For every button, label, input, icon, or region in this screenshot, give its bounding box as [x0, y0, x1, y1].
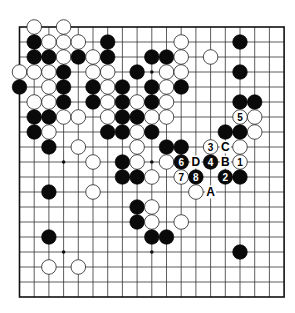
black-stone-icon — [100, 50, 115, 65]
black-stone — [233, 35, 248, 50]
white-stone: 5 — [233, 110, 248, 125]
star-point — [150, 160, 154, 164]
white-stone — [12, 65, 27, 80]
white-stone — [42, 65, 57, 80]
black-stone — [115, 80, 130, 95]
black-stone — [247, 95, 262, 110]
black-stone-icon — [145, 80, 160, 95]
black-stone — [145, 125, 160, 140]
white-stone — [71, 35, 86, 50]
white-stone-icon — [56, 110, 71, 125]
move-number: 1 — [237, 157, 243, 168]
black-stone-icon — [56, 65, 71, 80]
black-stone-icon — [159, 140, 174, 155]
white-stone: 1 — [233, 155, 248, 170]
white-stone-icon — [42, 95, 57, 110]
white-stone-icon — [27, 95, 42, 110]
white-stone-icon — [159, 95, 174, 110]
white-stone-icon — [71, 260, 86, 275]
white-stone-icon — [233, 140, 248, 155]
black-stone — [27, 35, 42, 50]
black-stone-icon — [42, 230, 57, 245]
white-stone-icon — [247, 125, 262, 140]
black-stone-icon — [247, 95, 262, 110]
letter-label: D — [192, 155, 201, 169]
black-stone-icon — [233, 170, 248, 185]
white-stone-icon — [56, 50, 71, 65]
white-stone — [27, 95, 42, 110]
black-stone-icon — [27, 35, 42, 50]
white-stone-icon — [130, 140, 145, 155]
black-stone-icon — [86, 80, 101, 95]
black-stone-icon — [233, 125, 248, 140]
white-stone-icon — [42, 260, 57, 275]
white-stone — [56, 50, 71, 65]
black-stone-icon — [27, 110, 42, 125]
black-stone-icon — [218, 125, 233, 140]
white-stone — [233, 140, 248, 155]
black-stone — [100, 50, 115, 65]
white-stone — [174, 50, 189, 65]
white-stone — [130, 155, 145, 170]
white-stone — [86, 155, 101, 170]
white-stone-icon — [174, 65, 189, 80]
black-stone: 6 — [174, 155, 189, 170]
black-stone — [233, 125, 248, 140]
white-stone: 7 — [174, 170, 189, 185]
white-stone — [100, 80, 115, 95]
white-stone — [42, 80, 57, 95]
white-stone-icon — [174, 35, 189, 50]
white-stone-icon — [130, 155, 145, 170]
white-stone-icon — [247, 110, 262, 125]
black-stone-icon — [233, 245, 248, 260]
black-stone — [130, 215, 145, 230]
black-stone-icon — [12, 80, 27, 95]
white-stone-icon — [71, 110, 86, 125]
black-stone — [159, 230, 174, 245]
black-stone — [233, 65, 248, 80]
black-stone — [145, 95, 160, 110]
black-stone: 2 — [218, 170, 233, 185]
move-number: 3 — [208, 142, 214, 153]
star-point — [150, 70, 154, 74]
white-stone-icon — [159, 155, 174, 170]
black-stone — [174, 80, 189, 95]
black-stone-icon — [42, 50, 57, 65]
white-stone — [56, 20, 71, 35]
white-stone-icon — [71, 35, 86, 50]
star-point — [62, 160, 66, 164]
white-stone-icon — [12, 65, 27, 80]
black-stone — [42, 110, 57, 125]
letter-marker: A — [205, 185, 216, 199]
black-stone — [56, 95, 71, 110]
white-stone: 3 — [203, 140, 218, 155]
white-stone — [145, 170, 160, 185]
white-stone — [159, 65, 174, 80]
black-stone — [145, 50, 160, 65]
white-stone — [42, 35, 57, 50]
white-stone — [27, 65, 42, 80]
white-stone-icon — [130, 125, 145, 140]
white-stone-icon — [189, 185, 204, 200]
white-stone-icon — [27, 20, 42, 35]
black-stone — [130, 65, 145, 80]
black-stone — [56, 65, 71, 80]
white-stone-icon — [130, 95, 145, 110]
white-stone-icon — [27, 65, 42, 80]
white-stone — [86, 185, 101, 200]
move-number: 5 — [237, 112, 243, 123]
white-stone-icon — [145, 110, 160, 125]
white-stone — [247, 125, 262, 140]
white-stone — [71, 110, 86, 125]
black-stone — [130, 110, 145, 125]
black-stone — [159, 50, 174, 65]
white-stone-icon — [100, 95, 115, 110]
white-stone — [56, 35, 71, 50]
white-stone-icon — [86, 185, 101, 200]
black-stone — [218, 125, 233, 140]
white-stone — [145, 110, 160, 125]
black-stone-icon — [130, 110, 145, 125]
white-stone — [159, 110, 174, 125]
white-stone — [86, 50, 101, 65]
black-stone-icon — [100, 125, 115, 140]
